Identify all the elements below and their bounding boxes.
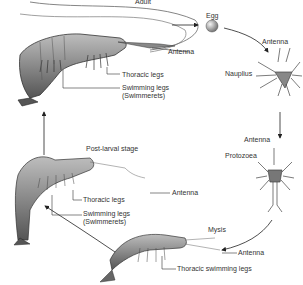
label-protozoea: Protozoea — [225, 152, 257, 160]
label-adult: Adult — [135, 0, 151, 6]
protozoea-illustration — [256, 148, 294, 212]
label-protozoea-antenna: Antenna — [244, 136, 270, 144]
label-nauplius: Nauplius — [225, 70, 252, 78]
shrimp-life-cycle-diagram: Adult Antenna Thoracic legs Swimming leg… — [0, 0, 303, 285]
label-mysis: Mysis — [208, 226, 226, 234]
label-mysis-thoracic-swimming-legs: Thoracic swimming legs — [177, 265, 252, 273]
label-nauplius-antenna: Antenna — [262, 38, 288, 46]
label-adult-thoracic-legs: Thoracic legs — [122, 71, 164, 79]
label-postlarval-swimming-legs: Swimming legs — [83, 210, 130, 218]
egg-illustration — [206, 20, 218, 32]
label-post-larval-stage: Post-larval stage — [86, 145, 138, 153]
nauplius-illustration — [256, 48, 302, 96]
mysis-illustration — [100, 234, 237, 282]
label-postlarval-antenna: Antenna — [172, 189, 198, 197]
label-postlarval-swimmerets: (Swimmerets) — [83, 218, 126, 226]
label-egg: Egg — [206, 12, 218, 20]
label-adult-swimmerets: (Swimmerets) — [122, 92, 165, 100]
label-postlarval-thoracic-legs: Thoracic legs — [83, 196, 125, 204]
label-adult-swimming-legs: Swimming legs — [122, 84, 169, 92]
arrow-protozoea-to-mysis — [222, 220, 272, 250]
label-adult-antenna: Antenna — [168, 48, 194, 56]
label-mysis-antenna: Antenna — [238, 249, 264, 257]
